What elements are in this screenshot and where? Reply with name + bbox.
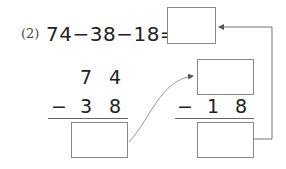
- step1-bottom-tens: 3: [80, 95, 92, 117]
- step2-top-box[interactable]: [197, 59, 254, 95]
- step1-minus-sign: −: [51, 95, 67, 117]
- step1-bottom-ones: 8: [109, 95, 121, 117]
- step2-bottom-ones: 8: [235, 95, 247, 117]
- step2-result-box[interactable]: [197, 122, 254, 158]
- step1-top-ones: 4: [109, 66, 121, 88]
- step2-underline: [175, 118, 254, 119]
- step2-minus-sign: −: [177, 95, 193, 117]
- step1-result-box[interactable]: [71, 122, 128, 158]
- problem-number: (2): [21, 26, 39, 41]
- answer-box[interactable]: [167, 7, 216, 44]
- equation-expression: 74−38−18=: [46, 22, 177, 46]
- step1-top-tens: 7: [80, 66, 92, 88]
- step2-bottom-tens: 1: [207, 95, 219, 117]
- step1-underline: [48, 118, 128, 119]
